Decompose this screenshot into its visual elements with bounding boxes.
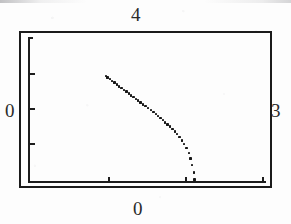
y-tick-0 (30, 73, 35, 75)
y-tick-2 (30, 143, 35, 145)
x-axis-line (28, 181, 266, 183)
y-axis-cap (28, 37, 33, 39)
right-axis-label: 3 (271, 101, 281, 120)
x-tick-2 (262, 177, 264, 182)
x-tick-0 (108, 177, 110, 182)
y-tick-1 (30, 108, 35, 110)
scanned-chart-figure: 4 3 0 0 (0, 0, 291, 224)
top-axis-label: 4 (131, 5, 141, 24)
left-axis-label: 0 (5, 101, 15, 120)
x-tick-1 (185, 177, 187, 182)
plot-outer-frame (19, 31, 272, 188)
scan-edge-artifact (0, 0, 291, 3)
bottom-axis-label: 0 (133, 199, 143, 218)
